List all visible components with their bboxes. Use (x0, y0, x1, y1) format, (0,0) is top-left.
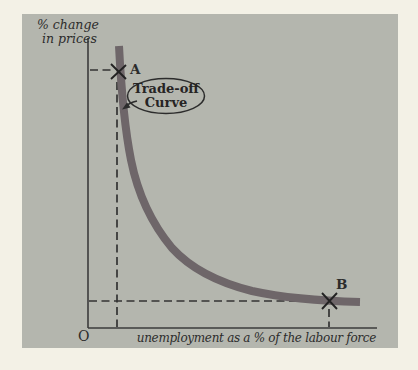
trade-off-curve-figure: % change in prices unemployment as a % o… (0, 0, 418, 370)
y-axis-label-line1: % change (37, 18, 99, 32)
y-axis-label-line2: in prices (37, 32, 99, 46)
trade-off-curve-callout: Trade-off Curve (133, 82, 199, 109)
point-b-label: B (336, 276, 347, 292)
callout-line2: Curve (133, 96, 199, 110)
point-a-label: A (130, 61, 140, 77)
chart-canvas (0, 0, 418, 370)
callout-line1: Trade-off (133, 82, 199, 96)
x-axis-label: unemployment as a % of the labour force (137, 331, 376, 345)
y-axis-label: % change in prices (37, 18, 99, 46)
origin-label: O (78, 328, 89, 344)
